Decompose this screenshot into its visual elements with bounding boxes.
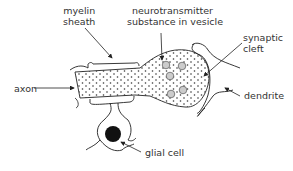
neurotransmitter-label: neurotransmitter substance in vesicle xyxy=(127,5,223,27)
neuro-line2: substance in vesicle xyxy=(127,16,223,27)
synaptic-line2: cleft xyxy=(243,43,283,54)
myelin-sheath-label: myelin sheath xyxy=(63,5,95,27)
myelin-line1: myelin xyxy=(63,5,95,16)
synaptic-cleft-label: synaptic cleft xyxy=(243,32,283,54)
glial-cell-label: glial cell xyxy=(145,147,184,158)
synaptic-line1: synaptic xyxy=(243,32,283,43)
myelin-line2: sheath xyxy=(63,16,95,27)
axon-label: axon xyxy=(14,83,37,94)
neuro-line1: neurotransmitter xyxy=(127,5,223,16)
dendrite-label: dendrite xyxy=(244,90,284,101)
axon-terminal xyxy=(70,50,209,108)
glial-nucleus xyxy=(105,126,121,142)
